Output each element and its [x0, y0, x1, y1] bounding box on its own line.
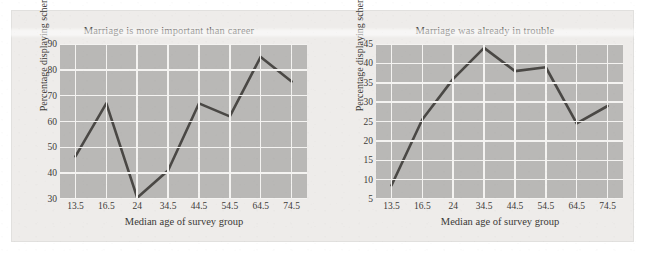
gridline-vertical — [452, 44, 454, 199]
y-tick-label: 50 — [31, 142, 57, 152]
gridline-vertical — [545, 44, 547, 199]
y-tick-label: 90 — [31, 39, 57, 49]
gridline-horizontal — [376, 82, 623, 84]
y-tick-label: 35 — [347, 78, 373, 88]
gridline-vertical — [483, 44, 485, 199]
gridline-vertical — [75, 44, 77, 199]
plot-area-right — [376, 44, 623, 199]
x-axis-title-left: Median age of survey group — [44, 216, 324, 227]
gridline-horizontal — [60, 44, 307, 45]
x-tick-label: 64.5 — [252, 201, 269, 211]
x-tick-label: 54.5 — [222, 201, 239, 211]
x-tick-label: 24 — [448, 201, 458, 211]
plot-area-left — [60, 44, 307, 199]
gridline-horizontal — [376, 44, 623, 45]
x-tick-label: 54.5 — [538, 201, 555, 211]
x-tick-label: 34.5 — [160, 201, 177, 211]
gridline-horizontal — [60, 69, 307, 71]
y-tick-label: 40 — [31, 168, 57, 178]
x-axis-tick-labels-left: 13.516.52434.544.554.564.574.5 — [60, 201, 307, 217]
gridline-vertical — [136, 44, 138, 199]
gridline-horizontal — [60, 147, 307, 149]
x-tick-label: 34.5 — [476, 201, 493, 211]
gridline-horizontal — [376, 160, 623, 162]
gridline-horizontal — [60, 95, 307, 97]
chart-marriage-more-important-than-career: Marriage is more important than career P… — [14, 11, 324, 241]
x-tick-label: 24 — [132, 201, 142, 211]
chart-title-left: Marriage is more important than career — [14, 25, 324, 36]
gridline-vertical — [106, 44, 108, 199]
gridline-vertical — [576, 44, 578, 199]
x-axis-tick-labels-right: 13.516.52434.544.554.564.574.5 — [376, 201, 623, 217]
gridline-vertical — [260, 44, 262, 199]
y-tick-label: 15 — [347, 155, 373, 165]
gridline-vertical — [391, 44, 393, 199]
gridline-horizontal — [60, 198, 307, 199]
y-tick-label: 25 — [347, 117, 373, 127]
chart-title-right: Marriage was already in trouble — [330, 25, 640, 36]
x-tick-label: 44.5 — [507, 201, 524, 211]
x-tick-label: 74.5 — [283, 201, 300, 211]
y-tick-label: 30 — [347, 97, 373, 107]
gridline-horizontal — [376, 101, 623, 103]
gridline-horizontal — [60, 172, 307, 174]
gridline-horizontal — [376, 179, 623, 181]
x-tick-label: 64.5 — [568, 201, 585, 211]
x-tick-label: 44.5 — [191, 201, 208, 211]
gridline-horizontal — [376, 198, 623, 199]
x-tick-label: 74.5 — [599, 201, 616, 211]
gridline-vertical — [198, 44, 200, 199]
x-tick-label: 13.5 — [67, 201, 84, 211]
y-tick-label: 70 — [31, 91, 57, 101]
gridline-horizontal — [376, 121, 623, 123]
y-tick-label: 5 — [347, 194, 373, 204]
x-tick-label: 13.5 — [383, 201, 400, 211]
chart-marriage-already-in-trouble: Marriage was already in trouble Percenta… — [330, 11, 640, 241]
gridline-vertical — [514, 44, 516, 199]
y-axis-tick-labels-left: 30405060708090 — [28, 44, 57, 199]
gridline-horizontal — [376, 63, 623, 65]
gridline-horizontal — [60, 121, 307, 123]
y-tick-label: 60 — [31, 117, 57, 127]
gridline-horizontal — [376, 140, 623, 142]
gridline-vertical — [422, 44, 424, 199]
gridline-vertical — [229, 44, 231, 199]
y-tick-label: 20 — [347, 136, 373, 146]
gridline-vertical — [607, 44, 609, 199]
y-tick-label: 45 — [347, 39, 373, 49]
x-axis-title-right: Median age of survey group — [360, 216, 640, 227]
gridline-vertical — [291, 44, 293, 199]
y-axis-tick-labels-right: 51015202530354045 — [344, 44, 373, 199]
y-tick-label: 80 — [31, 65, 57, 75]
y-tick-label: 40 — [347, 58, 373, 68]
y-tick-label: 10 — [347, 175, 373, 185]
x-tick-label: 16.5 — [98, 201, 115, 211]
figure-frame: Marriage is more important than career P… — [0, 0, 645, 253]
gridline-vertical — [167, 44, 169, 199]
y-tick-label: 30 — [31, 194, 57, 204]
x-tick-label: 16.5 — [414, 201, 431, 211]
